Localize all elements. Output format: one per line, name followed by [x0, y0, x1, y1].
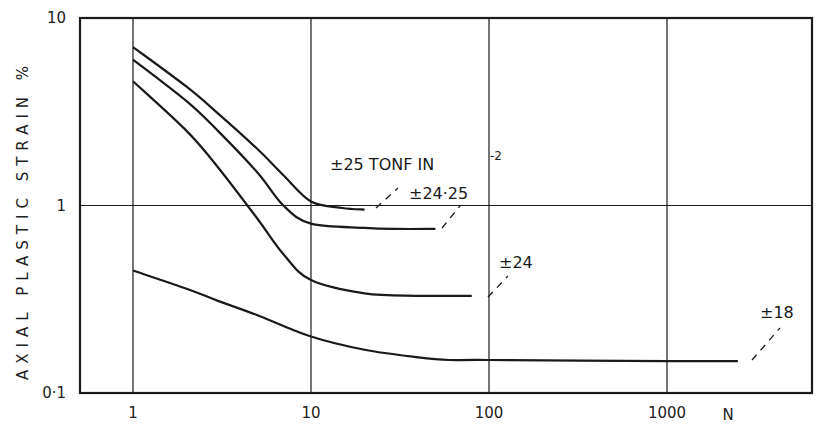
x-tick-label: 100	[475, 404, 504, 422]
x-axis-label: N	[722, 406, 733, 424]
series-curve	[133, 60, 435, 229]
series-curve	[133, 271, 738, 362]
x-tick-label: 10	[301, 404, 320, 422]
y-tick-label: 0·1	[42, 384, 66, 402]
series-annotations: ±25 TONF IN-2±24·25±24±18	[330, 149, 794, 360]
leader-line	[752, 328, 780, 360]
series-curve	[133, 47, 365, 210]
strain-chart: 1101001000N0·1110 ±25 TONF IN-2±24·25±24…	[0, 0, 819, 437]
y-tick-label: 10	[47, 9, 66, 27]
leader-line	[488, 276, 508, 297]
x-tick-label: 1	[128, 404, 138, 422]
annotation-25-exponent: -2	[490, 149, 502, 163]
x-tick-label: 1000	[648, 404, 686, 422]
leader-line	[442, 206, 460, 228]
data-curves	[133, 47, 738, 361]
grid-lines	[80, 18, 812, 393]
annotation-2425: ±24·25	[409, 184, 468, 203]
annotation-18: ±18	[760, 303, 794, 322]
annotation-25: ±25 TONF IN	[330, 155, 434, 174]
annotation-24: ±24	[499, 253, 533, 272]
y-tick-label: 1	[56, 197, 66, 215]
